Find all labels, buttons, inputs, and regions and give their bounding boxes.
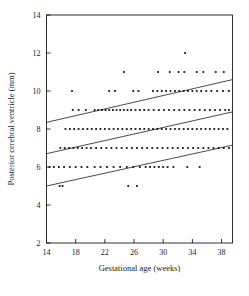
data-point [173, 109, 175, 111]
data-point [90, 147, 92, 149]
data-point [158, 166, 160, 168]
data-point [75, 166, 77, 168]
data-point [53, 166, 55, 168]
data-point [73, 128, 75, 130]
data-point [200, 90, 202, 92]
y-tick-label: 14 [33, 11, 41, 20]
data-point [167, 166, 169, 168]
mean-line [47, 112, 233, 154]
data-point [174, 128, 176, 130]
data-point [131, 147, 133, 149]
data-point [153, 109, 155, 111]
data-point [100, 166, 102, 168]
data-point [187, 128, 189, 130]
data-point [218, 128, 220, 130]
data-point [62, 185, 64, 187]
data-point [204, 109, 206, 111]
data-point [126, 147, 128, 149]
data-point [154, 166, 156, 168]
x-tick-label: 34 [188, 248, 196, 257]
data-point [104, 128, 106, 130]
scatter-plot-figure: 14182226303438 2468101214 Gestational ag… [0, 0, 249, 296]
data-point [127, 109, 129, 111]
data-point [148, 128, 150, 130]
data-point [228, 109, 230, 111]
data-point [177, 147, 179, 149]
data-point [191, 128, 193, 130]
data-point [114, 90, 116, 92]
data-point [173, 166, 175, 168]
data-point [222, 128, 224, 130]
data-point [81, 166, 83, 168]
data-point [163, 109, 165, 111]
data-point [223, 147, 225, 149]
data-point [94, 166, 96, 168]
x-tick-label: 22 [101, 248, 109, 257]
data-point [94, 109, 96, 111]
data-point [216, 90, 218, 92]
data-point [178, 90, 180, 92]
data-point [139, 166, 141, 168]
data-point [167, 147, 169, 149]
data-point [77, 147, 79, 149]
regression-lines [47, 80, 233, 186]
data-point [59, 147, 61, 149]
data-point [170, 90, 172, 92]
data-point [149, 166, 151, 168]
data-point [182, 147, 184, 149]
data-point [139, 109, 141, 111]
data-point [141, 147, 143, 149]
data-point [105, 147, 107, 149]
data-point [202, 147, 204, 149]
data-point [161, 128, 163, 130]
data-point [191, 90, 193, 92]
data-point [145, 166, 147, 168]
data-point [192, 147, 194, 149]
data-points [49, 52, 230, 187]
y-tick-label: 8 [37, 125, 41, 134]
data-point [65, 128, 67, 130]
data-point [228, 147, 230, 149]
x-tick-label: 14 [43, 248, 51, 257]
data-point [183, 90, 185, 92]
data-point [196, 128, 198, 130]
data-point [214, 109, 216, 111]
data-point [71, 90, 73, 92]
data-point [205, 128, 207, 130]
data-point [95, 128, 97, 130]
data-point [130, 109, 132, 111]
data-point [156, 90, 158, 92]
lower-limit-line [47, 145, 233, 186]
data-point [199, 109, 201, 111]
data-point [116, 147, 118, 149]
data-point [59, 185, 61, 187]
data-point [178, 128, 180, 130]
data-point [81, 147, 83, 149]
data-point [209, 128, 211, 130]
data-point [108, 109, 110, 111]
data-point [82, 128, 84, 130]
data-point [119, 109, 121, 111]
x-axis-ticks: 14182226303438 [43, 239, 226, 257]
data-point [63, 166, 65, 168]
data-point [156, 128, 158, 130]
data-point [178, 109, 180, 111]
data-point [169, 71, 171, 73]
x-tick-label: 30 [159, 248, 167, 257]
data-point [86, 128, 88, 130]
data-point [86, 166, 88, 168]
data-point [210, 90, 212, 92]
data-point [196, 90, 198, 92]
data-point [205, 90, 207, 92]
data-point [187, 90, 189, 92]
y-axis-ticks: 2468101214 [33, 11, 51, 248]
data-point [162, 166, 164, 168]
data-point [108, 128, 110, 130]
data-point [148, 109, 150, 111]
data-point [97, 109, 99, 111]
data-point [58, 166, 60, 168]
data-point [194, 109, 196, 111]
data-point [130, 128, 132, 130]
data-point [197, 147, 199, 149]
data-point [121, 128, 123, 130]
